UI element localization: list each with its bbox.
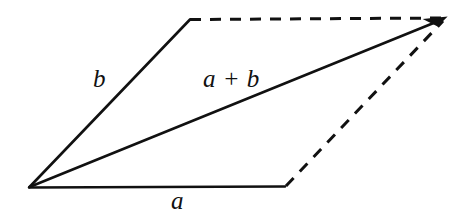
- vector-diagram-canvas: [0, 0, 472, 216]
- vector-a-label: a: [171, 188, 184, 213]
- dashed-right-edge-line: [286, 21, 443, 186]
- vector-b-line: [30, 20, 191, 188]
- vector-a-line: [29, 187, 285, 188]
- vector-sum-line: [30, 20, 442, 187]
- dashed-top-edge-line: [190, 18, 444, 20]
- vector-sum-label: a + b: [203, 66, 260, 91]
- diagram-strokes: [29, 18, 446, 188]
- vector-b-label: b: [93, 66, 106, 91]
- vector-diagram-figure: b a + b a: [0, 0, 472, 216]
